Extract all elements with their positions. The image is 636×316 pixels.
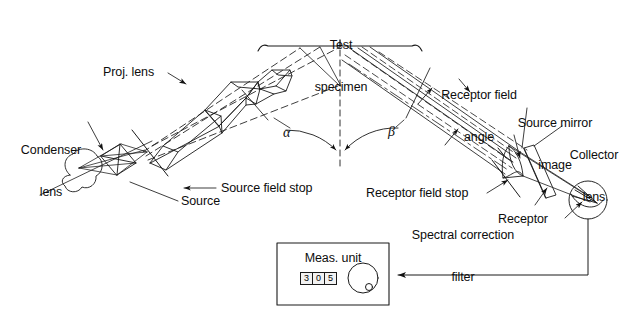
angle-arc-alpha <box>286 130 336 150</box>
condenser-lens-label: Condenser lens <box>8 115 94 227</box>
collector-lens-label-line1: Collector <box>558 148 630 162</box>
collector-lens-label-line2: lens <box>558 190 630 204</box>
meas-unit-display: 3 0 5 <box>300 272 337 285</box>
collector-lens-label: Collector lens <box>558 120 630 232</box>
angle-alpha-label: α <box>283 125 290 141</box>
meas-unit-digit-1: 0 <box>313 273 325 284</box>
test-specimen-label-line1: Test <box>296 38 386 52</box>
receptor-label: Receptor <box>498 212 548 226</box>
test-specimen-label-line2: specimen <box>296 80 386 94</box>
meas-unit-digit-0: 3 <box>301 273 313 284</box>
proj-lens-label: Proj. lens <box>103 65 154 79</box>
test-specimen-label: Test specimen <box>296 10 386 122</box>
source-label: Source <box>181 194 220 208</box>
source-field-stop-label: Source field stop <box>221 181 312 195</box>
spectral-correction-filter-label-line1: Spectral correction <box>392 228 534 242</box>
meas-unit-digit-2: 5 <box>325 273 336 284</box>
receptor-field-stop-label: Receptor field stop <box>366 186 468 200</box>
angle-beta-label: β <box>388 124 395 140</box>
condenser-lens-element <box>101 144 136 175</box>
condenser-lens-label-line2: lens <box>8 185 94 199</box>
projector-lens-barrel <box>150 70 292 170</box>
condenser-lens-label-line1: Condenser <box>8 143 94 157</box>
optical-geometry-diagram: Test specimen Proj. lens Condenser lens … <box>0 0 636 316</box>
meas-unit-title: Meas. unit <box>283 251 383 265</box>
spectral-correction-filter-label-line2: filter <box>392 270 534 284</box>
